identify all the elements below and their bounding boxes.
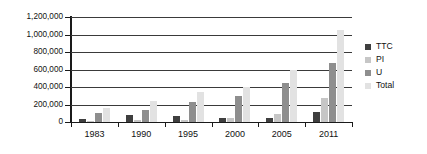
x-axis-tick-label: 2011 [319, 130, 338, 139]
bar-pi-1990 [134, 120, 141, 122]
bar-ttc-2000 [219, 118, 226, 122]
x-axis-tick-mark [305, 122, 306, 127]
x-axis-tick-label: 1990 [131, 130, 151, 139]
x-axis-tick-label: 2005 [272, 130, 292, 139]
legend-item-total: Total [365, 79, 425, 92]
grouped-bar-chart: 1,200,0001,000,000800,000600,000400,0002… [0, 0, 427, 154]
bar-u-2011 [329, 63, 336, 123]
gridline [71, 52, 352, 53]
bar-total-2005 [290, 70, 297, 123]
bar-pi-2005 [274, 114, 281, 122]
bar-ttc-2011 [313, 112, 320, 122]
bar-u-1983 [95, 113, 102, 122]
legend-label: TTC [376, 42, 393, 51]
gridline [71, 70, 352, 71]
bar-pi-2011 [321, 98, 328, 122]
y-axis-tick-label: 1,000,000 [27, 31, 63, 39]
x-axis-tick-mark [71, 122, 72, 127]
y-axis-tick-label: 0 [58, 118, 63, 126]
bar-ttc-1990 [126, 115, 133, 122]
x-axis-tick-mark [118, 122, 119, 127]
y-axis-tick-label: 1,200,000 [27, 13, 63, 21]
gridline [71, 17, 352, 18]
gridline [71, 105, 352, 106]
chart-legend: TTCPIUTotal [365, 40, 425, 92]
x-axis-tick-label: 1983 [84, 130, 104, 139]
bar-u-1990 [142, 110, 149, 122]
legend-swatch-icon [365, 70, 371, 76]
legend-item-ttc: TTC [365, 40, 425, 53]
y-axis-tick-label: 600,000 [33, 66, 63, 74]
bar-total-1990 [150, 101, 157, 122]
plot-area [71, 17, 352, 122]
bar-pi-1983 [87, 121, 94, 122]
bar-pi-2000 [227, 118, 234, 122]
legend-label: U [376, 68, 382, 77]
legend-label: Total [376, 81, 394, 90]
y-axis-tick-label: 200,000 [33, 101, 63, 109]
x-axis-tick-mark [352, 122, 353, 127]
bar-ttc-1983 [79, 119, 86, 122]
gridline [71, 87, 352, 88]
bar-u-2005 [282, 83, 289, 122]
legend-item-pi: PI [365, 53, 425, 66]
legend-swatch-icon [365, 44, 371, 50]
legend-swatch-icon [365, 57, 371, 63]
legend-label: PI [376, 55, 384, 64]
legend-swatch-icon [365, 83, 371, 89]
x-axis-tick-mark [165, 122, 166, 127]
bar-u-2000 [235, 96, 242, 122]
screenshot-root: 1,200,0001,000,000800,000600,000400,0002… [0, 0, 427, 154]
x-axis-tick-label: 1995 [178, 130, 198, 139]
legend-item-u: U [365, 66, 425, 79]
bar-u-1995 [189, 102, 196, 122]
y-axis-tick-label: 800,000 [33, 48, 63, 56]
y-axis-tick-label: 400,000 [33, 83, 63, 91]
bar-ttc-2005 [266, 118, 273, 122]
bar-pi-1995 [181, 120, 188, 122]
x-axis-tick-mark [258, 122, 259, 127]
bar-total-2011 [337, 30, 344, 122]
bar-total-1983 [103, 108, 110, 122]
x-axis-tick-mark [212, 122, 213, 127]
gridline [71, 35, 352, 36]
x-axis-tick-label: 2000 [225, 130, 245, 139]
bar-total-2000 [243, 87, 250, 122]
bar-ttc-1995 [173, 116, 180, 122]
bar-total-1995 [197, 92, 204, 122]
